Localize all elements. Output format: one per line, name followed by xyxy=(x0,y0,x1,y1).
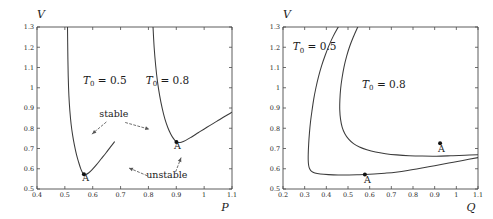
right-yticklabel: 0.5 xyxy=(270,185,280,193)
left-xticklabel: 1.1 xyxy=(227,191,237,199)
right-plot-svg: 0.20.30.40.50.60.70.80.911.10.50.60.70.8… xyxy=(246,0,493,219)
left-marker-label: A xyxy=(81,172,89,183)
left-curve-t005 xyxy=(68,27,115,175)
left-annotation-arrowhead xyxy=(145,126,149,130)
right-curve-t008 xyxy=(340,27,478,156)
right-yticklabel: 1.3 xyxy=(270,23,280,31)
left-marker-label: A xyxy=(173,140,181,151)
left-x-axis-title: P xyxy=(220,201,229,214)
right-xticklabel: 0.8 xyxy=(408,191,418,199)
left-yticklabel: 0.7 xyxy=(24,145,34,153)
left-yticklabel: 1.3 xyxy=(24,23,34,31)
right-xticklabel: 0.5 xyxy=(343,191,353,199)
right-x-axis-title: Q xyxy=(466,201,475,214)
left-curve-group xyxy=(68,27,233,175)
left-yticklabel: 0.6 xyxy=(24,165,34,173)
left-xticklabel: 0.6 xyxy=(88,191,98,199)
series-label-value: = 0.8 xyxy=(374,78,406,90)
left-yticklabel: 0.9 xyxy=(24,104,34,112)
left-series-label: T0 = 0.8 xyxy=(146,74,190,88)
left-yticklabel: 1 xyxy=(30,84,34,92)
right-yticklabel: 1.2 xyxy=(270,44,280,52)
left-yticklabel: 1.1 xyxy=(24,64,34,72)
right-plot-panel: 0.20.30.40.50.60.70.80.911.10.50.60.70.8… xyxy=(246,0,493,219)
left-y-axis-title: V xyxy=(37,8,46,21)
left-annotation-label: unstable xyxy=(146,169,188,180)
figure-container: 0.40.50.60.70.80.911.10.50.60.70.80.911.… xyxy=(0,0,493,219)
right-yticklabel: 1 xyxy=(276,84,280,92)
left-plot-svg: 0.40.50.60.70.80.911.10.50.60.70.80.911.… xyxy=(0,0,247,219)
left-annotations xyxy=(92,122,181,175)
series-label-value: = 0.5 xyxy=(304,40,336,52)
right-text-layer: 0.20.30.40.50.60.70.80.911.10.50.60.70.8… xyxy=(270,8,483,214)
left-xticklabel: 0.5 xyxy=(60,191,70,199)
series-label-value: = 0.5 xyxy=(94,74,126,86)
right-yticklabel: 1.1 xyxy=(270,64,280,72)
right-xticklabel: 1 xyxy=(454,191,458,199)
right-xticklabel: 1.1 xyxy=(473,191,483,199)
series-label-value: = 0.8 xyxy=(157,74,189,86)
left-annotation-label: stable xyxy=(99,108,128,119)
right-xticklabel: 0.3 xyxy=(300,191,310,199)
left-plot-panel: 0.40.50.60.70.80.911.10.50.60.70.80.911.… xyxy=(0,0,247,219)
left-text-layer: 0.40.50.60.70.80.911.10.50.60.70.80.911.… xyxy=(24,8,237,214)
right-xticklabel: 0.4 xyxy=(321,191,331,199)
left-xticklabel: 0.7 xyxy=(115,191,125,199)
left-yticklabel: 0.8 xyxy=(24,125,34,133)
right-yticklabel: 0.9 xyxy=(270,104,280,112)
right-yticklabel: 0.6 xyxy=(270,165,280,173)
left-axes xyxy=(37,27,232,189)
right-series-label: T0 = 0.5 xyxy=(293,40,337,54)
right-xticklabel: 0.9 xyxy=(430,191,440,199)
right-xticklabel: 0.6 xyxy=(365,191,375,199)
left-xticklabel: 0.8 xyxy=(143,191,153,199)
right-marker-label: A xyxy=(363,174,371,185)
left-xticklabel: 0.9 xyxy=(171,191,181,199)
left-annotation-arrowhead xyxy=(129,168,133,171)
right-yticklabel: 0.8 xyxy=(270,125,280,133)
left-series-label: T0 = 0.5 xyxy=(83,74,127,88)
left-xticklabel: 1 xyxy=(202,191,206,199)
right-series-label: T0 = 0.8 xyxy=(362,78,406,92)
right-marker-label: A xyxy=(437,143,445,154)
right-y-axis-title: V xyxy=(283,8,292,21)
left-axis-frame xyxy=(37,27,232,189)
right-xticklabel: 0.7 xyxy=(386,191,396,199)
left-yticklabel: 0.5 xyxy=(24,185,34,193)
left-yticklabel: 1.2 xyxy=(24,44,34,52)
right-yticklabel: 0.7 xyxy=(270,145,280,153)
left-curves xyxy=(68,27,233,176)
